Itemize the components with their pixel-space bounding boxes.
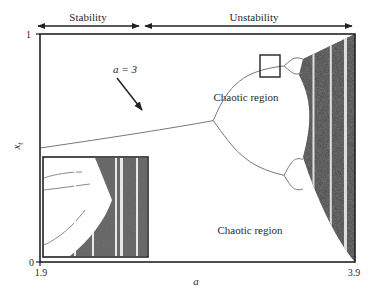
x-axis-label: a [193,275,199,287]
region-arrows: Stability Unstability [38,11,352,26]
x-tick-label-min: 1.9 [35,267,48,278]
fixed-point-branch [40,121,213,148]
y-axis-label: xt [10,142,25,151]
y-tick-label-max: 1 [26,29,31,40]
inset-periodic-window [92,158,94,256]
periodic-window [312,34,314,262]
y-axis-label-sub: t [16,142,25,145]
stability-label: Stability [69,11,107,23]
bifurcation-chart: Stability Unstability 1 0 1.9 3.9 a xt a… [0,0,373,294]
x-tick-label-max: 3.9 [348,267,361,278]
chaotic-band [293,34,355,262]
periodic-window [344,34,347,262]
chaotic-region-label-lower: Chaotic region [217,224,283,236]
lower-branch [213,121,284,176]
chaotic-region-label-upper: Chaotic region [213,91,279,103]
zoom-box [260,55,280,77]
inset [43,157,148,257]
unstability-label: Unstability [230,11,279,23]
svg-text:xt: xt [10,142,25,151]
inset-periodic-window [74,158,76,256]
inset-periodic-window [115,158,117,256]
periodic-window [330,34,332,262]
y-tick-label-min: 0 [29,257,34,268]
lower-period-doubling [284,159,303,190]
a-equals-3-label: a = 3 [113,63,137,75]
a-equals-3-arrow [117,78,142,110]
inset-periodic-window [120,158,123,256]
inset-periodic-window [136,158,138,256]
